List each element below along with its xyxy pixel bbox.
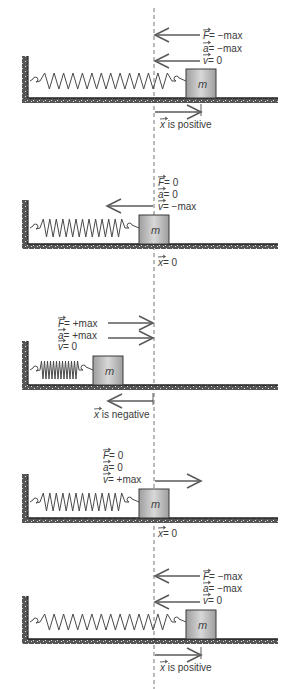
mass-label: m [151, 498, 160, 510]
force-label: F= −max [203, 571, 242, 582]
floor [22, 244, 278, 249]
velocity-arrow [155, 54, 200, 68]
displacement-label: x= 0 [157, 257, 178, 268]
velocity-arrow [155, 595, 200, 609]
wall [22, 596, 28, 644]
displacement-arrow [155, 104, 201, 119]
velocity-label: v= −max [158, 201, 196, 212]
displacement-label: x is positive [159, 662, 212, 673]
wall [22, 341, 28, 390]
panel-3: mF= +maxa= +maxv= 0x is negative [22, 316, 278, 420]
velocity-label: v= +max [103, 474, 141, 485]
velocity-label: v= 0 [203, 55, 223, 66]
spring [30, 493, 139, 511]
shm-spring-diagram: mF= −maxa= −maxv= 0x is positivemF= 0a= … [0, 0, 295, 689]
displacement-arrow [155, 647, 201, 662]
floor [22, 385, 278, 390]
panel-1: mF= −maxa= −maxv= 0x is positive [22, 28, 278, 130]
velocity-label: v= 0 [58, 341, 78, 352]
acceleration-label: a= −max [203, 583, 242, 594]
force-label: F= −max [203, 30, 242, 41]
displacement-label: x= 0 [157, 528, 178, 539]
panels: mF= −maxa= −maxv= 0x is positivemF= 0a= … [22, 28, 278, 673]
mass-label: m [198, 619, 207, 631]
force-label: F= +max [58, 318, 97, 329]
mass-label: m [105, 365, 114, 377]
force-arrow [155, 569, 200, 583]
displacement-arrow [108, 393, 153, 408]
force-arrow [155, 28, 200, 42]
force-label: F= 0 [103, 450, 124, 461]
floor [22, 639, 278, 644]
panel-5: mF= −maxa= −maxv= 0x is positive [22, 569, 278, 673]
spring [30, 361, 93, 379]
acceleration-label: a= 0 [103, 462, 123, 473]
spring [30, 614, 186, 630]
acceleration-arrow [108, 331, 153, 345]
wall [22, 474, 28, 523]
displacement-label: x is negative [93, 409, 150, 420]
spring [30, 73, 186, 89]
velocity-arrow [155, 474, 201, 488]
panel-2: mF= 0a= 0v= −maxx= 0 [22, 175, 278, 268]
spring [30, 219, 139, 237]
mass-label: m [198, 78, 207, 90]
acceleration-label: a= 0 [158, 189, 178, 200]
force-arrow [108, 316, 153, 330]
acceleration-label: a= −max [203, 43, 242, 54]
floor [22, 98, 278, 103]
panel-4: mF= 0a= 0v= +maxx= 0 [22, 448, 278, 539]
wall [22, 200, 28, 249]
mass-label: m [151, 224, 160, 236]
velocity-arrow [107, 199, 153, 213]
displacement-label: x is positive [159, 119, 212, 130]
velocity-label: v= 0 [203, 595, 223, 606]
floor [22, 518, 278, 523]
force-label: F= 0 [158, 177, 179, 188]
wall [22, 56, 28, 103]
